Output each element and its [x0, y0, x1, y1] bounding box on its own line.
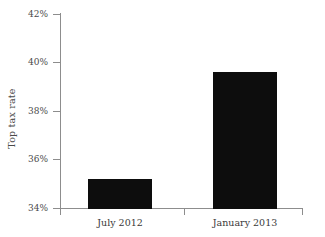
- y-tick-mark-34: [53, 208, 60, 209]
- y-tick-label-38: 38%: [8, 106, 48, 116]
- bar-chart: Top tax rate 42% 40% 38% 36% 34% July 20…: [0, 0, 325, 237]
- x-tick-mark-middle: [184, 209, 185, 215]
- y-tick-label-36: 36%: [8, 154, 48, 164]
- y-axis-label: Top tax rate: [0, 0, 22, 237]
- y-tick-label-42: 42%: [8, 9, 48, 19]
- y-tick-mark-42: [53, 14, 60, 15]
- y-tick-mark-38: [53, 111, 60, 112]
- bar-january-2013: [213, 72, 277, 209]
- x-tick-label-july-2012: July 2012: [75, 217, 165, 228]
- x-tick-label-january-2013: January 2013: [198, 217, 292, 228]
- y-tick-mark-40: [53, 62, 60, 63]
- y-tick-label-34: 34%: [8, 203, 48, 213]
- x-tick-mark-start: [60, 209, 61, 215]
- y-tick-mark-36: [53, 159, 60, 160]
- x-tick-mark-end: [302, 209, 303, 215]
- y-axis-line: [60, 13, 61, 209]
- bar-july-2012: [88, 179, 152, 209]
- y-tick-label-40: 40%: [8, 57, 48, 67]
